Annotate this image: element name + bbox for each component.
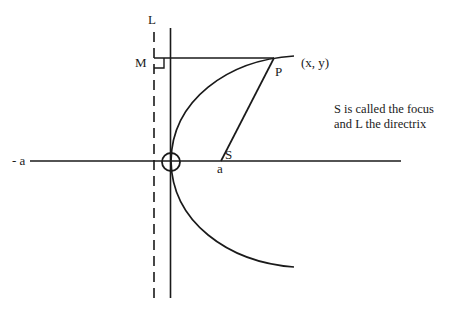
note-line-2: and L the directrix [334, 117, 427, 131]
label-neg-a: - a [12, 153, 26, 168]
label-focus: S [225, 147, 232, 162]
label-point-coords: (x, y) [301, 55, 329, 70]
label-p: P [275, 64, 282, 79]
label-directrix: L [148, 12, 156, 27]
parabola-diagram: L M P (x, y) S a - a S is called the foc… [0, 0, 452, 312]
label-m: M [135, 55, 147, 70]
note-line-1: S is called the focus [334, 102, 434, 116]
right-angle-marker [154, 58, 164, 68]
label-focus-x: a [217, 161, 223, 176]
